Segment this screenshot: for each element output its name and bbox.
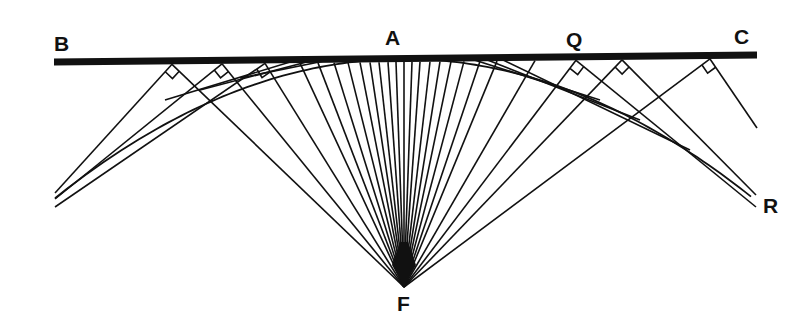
label-b: B bbox=[54, 33, 69, 54]
right-angle-mark bbox=[570, 67, 584, 75]
line-bc bbox=[54, 55, 757, 62]
tangent-line bbox=[497, 57, 690, 150]
focal-ray bbox=[300, 63, 404, 287]
right-angle-mark bbox=[615, 67, 629, 74]
label-r: R bbox=[763, 195, 778, 216]
right-angle-mark bbox=[165, 71, 179, 78]
right-angle-mark bbox=[702, 65, 716, 73]
parabola-envelope-diagram bbox=[0, 0, 807, 324]
right-angle-mark bbox=[214, 70, 228, 78]
label-q: Q bbox=[566, 29, 582, 50]
tangent-line bbox=[55, 63, 265, 207]
tangent-line bbox=[710, 59, 757, 128]
tangent-line bbox=[165, 59, 300, 100]
tangent-lines bbox=[55, 57, 757, 207]
tangent-line bbox=[55, 64, 172, 193]
focal-ray bbox=[404, 59, 710, 287]
label-f: F bbox=[397, 293, 410, 314]
focal-ray bbox=[404, 60, 622, 287]
tangent-line bbox=[576, 60, 756, 207]
focal-ray bbox=[404, 60, 576, 287]
label-c: C bbox=[734, 26, 749, 47]
label-a: A bbox=[385, 27, 400, 48]
focal-rays bbox=[172, 59, 710, 287]
